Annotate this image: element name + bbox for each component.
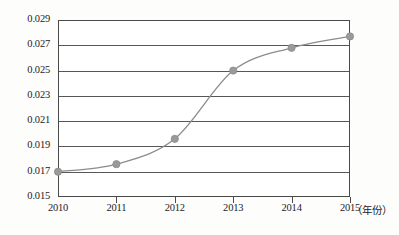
chart-figure: 0.0290.0270.0250.0230.0210.0190.0170.015…: [0, 0, 399, 235]
plot-area: [58, 20, 350, 197]
gridline: [59, 146, 349, 147]
gridline: [59, 96, 349, 97]
y-axis-tick-label: 0.019: [4, 139, 50, 150]
x-axis-title: （年份）: [352, 202, 392, 217]
gridline: [59, 71, 349, 72]
x-axis-tick-label: 2012: [151, 202, 199, 213]
gridline: [59, 172, 349, 173]
y-axis-tick-label: 0.015: [4, 190, 50, 201]
x-axis-tick-label: 2010: [34, 202, 82, 213]
x-axis-tick-label: 2014: [268, 202, 316, 213]
gridline: [59, 121, 349, 122]
y-axis-tick-label: 0.025: [4, 64, 50, 75]
x-axis-tick-label: 2011: [92, 202, 140, 213]
x-axis-tick-label: 2013: [209, 202, 257, 213]
y-axis-tick-label: 0.021: [4, 114, 50, 125]
gridline: [59, 45, 349, 46]
y-axis-tick-label: 0.017: [4, 165, 50, 176]
y-axis-tick-label: 0.029: [4, 13, 50, 24]
y-axis-tick-label: 0.023: [4, 89, 50, 100]
y-axis-tick-label: 0.027: [4, 38, 50, 49]
